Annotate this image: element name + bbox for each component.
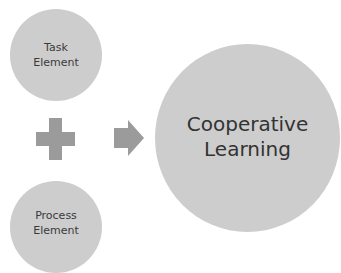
plus-icon <box>36 118 75 160</box>
cooperative-learning-circle: Cooperative Learning <box>155 44 340 232</box>
process-element-circle: Process Element <box>10 181 102 273</box>
task-element-label-line-1: Task <box>33 40 79 55</box>
plus-icon-vertical-bar <box>49 118 62 160</box>
cooperative-learning-label: Cooperative Learning <box>187 112 308 162</box>
arrow-right-shape <box>114 120 144 156</box>
cooperative-learning-label-line-2: Learning <box>187 137 308 162</box>
task-element-label: Task Element <box>33 40 79 70</box>
task-element-label-line-2: Element <box>33 55 79 70</box>
task-element-circle: Task Element <box>10 9 102 101</box>
process-element-label-line-1: Process <box>33 208 79 223</box>
cooperative-learning-label-line-1: Cooperative <box>187 112 308 137</box>
arrow-right-icon <box>114 120 144 156</box>
process-element-label-line-2: Element <box>33 223 79 238</box>
process-element-label: Process Element <box>33 208 79 238</box>
